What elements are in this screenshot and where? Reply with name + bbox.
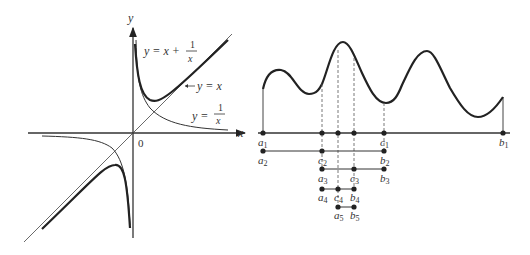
svg-text:x: x [215, 115, 221, 126]
svg-text:y = x: y = x [196, 79, 222, 93]
diagram-canvas: y x 0 y = x + 1 x y = x y = 1 x [0, 0, 530, 255]
x-axis-label: x [237, 126, 244, 140]
svg-text:a2: a2 [258, 154, 268, 168]
svg-text:b2: b2 [380, 154, 390, 168]
main-curve-label: y = x + 1 x [143, 39, 197, 64]
origin-label: 0 [138, 137, 144, 149]
main-curve-neg [42, 165, 130, 229]
y-axis-label: y [127, 11, 134, 25]
reciprocal-label: y = 1 x [191, 102, 225, 126]
asymptote-label: y = x [185, 79, 222, 93]
svg-text:1: 1 [218, 102, 223, 113]
svg-text:a5: a5 [334, 209, 344, 223]
svg-text:b1: b1 [499, 136, 509, 150]
dashed-guides [322, 50, 384, 209]
svg-text:b5: b5 [350, 209, 360, 223]
svg-text:c1: c1 [380, 136, 389, 150]
svg-text:b3: b3 [380, 172, 390, 186]
svg-text:1: 1 [190, 39, 195, 50]
svg-text:a3: a3 [318, 172, 328, 186]
right-figure: a1 c1 b1 a2 c2 b2 a3 c3 b3 a4 c4 b4 a5 b… [258, 42, 510, 223]
svg-text:a1: a1 [258, 136, 268, 150]
svg-text:c2: c2 [318, 154, 327, 168]
svg-text:c3: c3 [350, 172, 359, 186]
svg-text:b4: b4 [350, 191, 360, 205]
svg-text:a4: a4 [318, 191, 328, 205]
function-curve [263, 42, 503, 117]
svg-text:x: x [187, 53, 193, 64]
svg-text:y = x +: y = x + [143, 44, 180, 58]
svg-text:c4: c4 [334, 191, 343, 205]
left-figure: y x 0 y = x + 1 x y = x y = 1 x [24, 11, 245, 242]
svg-text:y =: y = [191, 109, 208, 123]
